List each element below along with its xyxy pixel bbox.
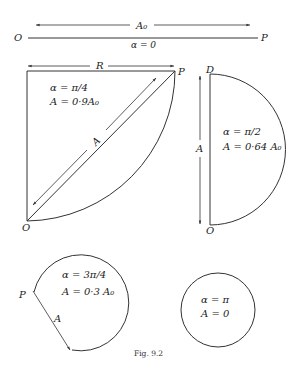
- point-p-label: P: [260, 32, 268, 43]
- corner-p-label: P: [177, 66, 185, 77]
- a-arrow-lower: [33, 150, 87, 205]
- point-o-label: O: [206, 225, 214, 236]
- panel-alpha-pi: α = π A = 0: [181, 273, 255, 347]
- point-p-label: P: [18, 289, 26, 300]
- a0-label: A₀: [135, 20, 147, 31]
- amplitude-label: A = 0: [200, 308, 230, 319]
- panel-alpha-3pi-4: P A α = 3π/4 A = 0·3 A₀: [18, 255, 129, 351]
- chord-line: [27, 71, 175, 221]
- phasor-diagram: A₀ O P α = 0 R A P O α = π/4 A = 0·9A₀ D…: [0, 0, 298, 369]
- radius-label: R: [95, 60, 104, 71]
- alpha-label: α = π/4: [50, 82, 88, 93]
- a-arrow-upper: [106, 78, 156, 130]
- amplitude-label: A = 0·64 A₀: [222, 141, 282, 152]
- panel-alpha-pi-2: D A O α = π/2 A = 0·64 A₀: [195, 64, 285, 236]
- alpha-label: α = π: [201, 294, 229, 305]
- alpha-label: α = π/2: [223, 126, 261, 137]
- chord-label: A: [53, 313, 61, 324]
- point-o-label: O: [14, 32, 22, 43]
- origin-o-label: O: [22, 222, 30, 233]
- amplitude-label: A = 0·9A₀: [49, 96, 99, 107]
- panel-alpha-0: A₀ O P α = 0: [14, 20, 268, 50]
- amplitude-label: A = 0·3 A₀: [61, 286, 114, 297]
- alpha-label: α = 3π/4: [62, 269, 106, 280]
- alpha-label: α = 0: [131, 40, 156, 50]
- point-d-label: D: [205, 64, 214, 75]
- figure-caption: Fig. 9.2: [134, 349, 163, 358]
- chord-label: A: [195, 143, 203, 154]
- chord-arrow: [33, 291, 70, 350]
- panel-alpha-pi-4: R A P O α = π/4 A = 0·9A₀: [22, 60, 185, 233]
